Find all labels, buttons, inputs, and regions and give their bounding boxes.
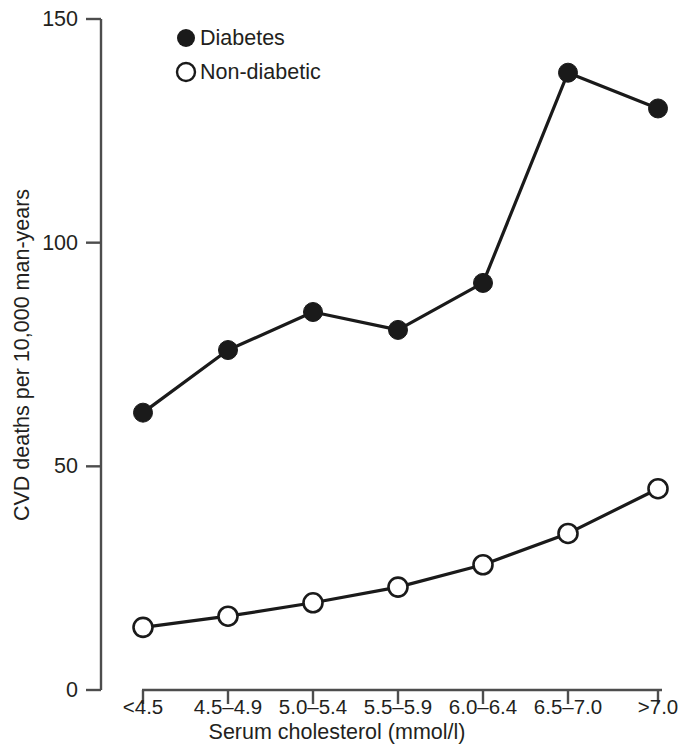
y-tick-label: 150: [0, 7, 78, 32]
legend-marker-open-circle: [177, 63, 195, 81]
data-point-marker: [389, 578, 408, 597]
data-point-marker: [134, 618, 153, 637]
x-tick-label: 6.0–6.4: [449, 695, 517, 719]
data-point-marker: [304, 303, 323, 322]
x-tick-label: <4.5: [123, 695, 163, 719]
data-point-marker: [474, 273, 493, 292]
data-point-marker: [304, 593, 323, 612]
data-point-marker: [559, 524, 578, 543]
y-tick-label: 100: [0, 230, 78, 255]
legend-marker-filled-circle: [177, 29, 195, 47]
data-point-marker: [219, 341, 238, 360]
data-point-marker: [389, 320, 408, 339]
data-point-marker: [649, 99, 668, 118]
x-tick-label: >7.0: [638, 695, 678, 719]
x-tick-label: 5.5–5.9: [364, 695, 432, 719]
data-point-marker: [559, 63, 578, 82]
legend-label: Diabetes: [200, 26, 285, 51]
x-axis-title: Serum cholesterol (mmol/l): [0, 720, 674, 745]
series-markers: [134, 63, 668, 637]
data-point-marker: [134, 403, 153, 422]
legend-markers: [177, 29, 195, 81]
legend-label: Non-diabetic: [200, 60, 321, 85]
data-point-marker: [649, 479, 668, 498]
x-tick-label: 5.0–5.4: [279, 695, 347, 719]
y-tick-label: 0: [0, 678, 78, 703]
series-line-non-diabetic: [143, 489, 658, 628]
data-point-marker: [219, 607, 238, 626]
x-tick-label: 6.5–7.0: [534, 695, 602, 719]
data-point-marker: [474, 555, 493, 574]
y-axis-ticks: [86, 19, 101, 690]
y-tick-label: 50: [0, 454, 78, 479]
x-tick-label: 4.5–4.9: [194, 695, 262, 719]
series-line-diabetes: [143, 73, 658, 413]
